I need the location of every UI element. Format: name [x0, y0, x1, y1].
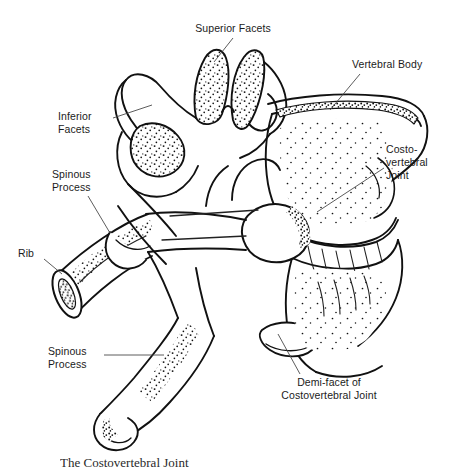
label-spinous-process-upper: Spinous Process: [52, 168, 108, 194]
leader-spinous-upper: [88, 196, 110, 233]
rib-shape: [47, 214, 154, 322]
anatomy-figure: Superior Facets Vertebral Body Inferior …: [0, 0, 450, 467]
label-spinous-process-lower: Spinous Process: [48, 345, 106, 371]
leader-inferior-facets: [113, 105, 152, 118]
label-superior-facets: Superior Facets: [173, 22, 293, 35]
label-costovertebral-joint: Costo- vertebral Joint: [386, 143, 448, 182]
label-vertebral-body: Vertebral Body: [352, 58, 448, 71]
figure-caption: The Costovertebral Joint: [60, 455, 400, 467]
lamina-and-inferior-facet: [115, 74, 198, 196]
leader-rib: [44, 259, 62, 274]
label-demi-facet-costovertebral-joint: Demi-facet of Costovertebral Joint: [243, 376, 415, 402]
superior-facets-shape: [194, 50, 264, 129]
label-inferior-facets: Inferior Facets: [58, 110, 110, 136]
label-rib: Rib: [18, 247, 48, 260]
